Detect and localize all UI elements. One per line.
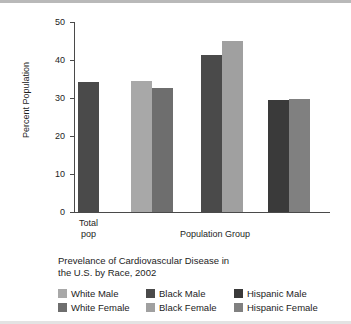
legend-item-white-female: White Female (58, 302, 146, 313)
legend-swatch-icon (58, 303, 67, 312)
legend-label: Black Male (159, 288, 205, 299)
x-tick-label-line-1: Total (65, 218, 112, 229)
x-axis-line (74, 212, 330, 213)
bars-container (0, 22, 351, 212)
bar-chart-plot: 01020304050 Percent Population Totalpop … (0, 0, 351, 240)
y-axis-tick (70, 212, 75, 213)
legend-item-hispanic-male: Hispanic Male (234, 288, 334, 299)
legend-item-black-female: Black Female (146, 302, 234, 313)
legend-swatch-icon (234, 303, 243, 312)
bar-hispanic-female (289, 99, 310, 212)
caption-line-2: the U.S. by Race, 2002 (58, 267, 343, 279)
legend-item-black-male: Black Male (146, 288, 234, 299)
legend-label: Black Female (159, 302, 217, 313)
bar-total-pop (78, 82, 99, 212)
legend-row: White FemaleBlack FemaleHispanic Female (58, 300, 348, 314)
legend-item-white-male: White Male (58, 288, 146, 299)
x-tick-label-total-pop: Totalpop (65, 218, 112, 240)
bar-black-female (222, 41, 243, 212)
legend-label: White Female (71, 302, 130, 313)
bar-white-female (152, 88, 173, 212)
bar-black-male (201, 55, 222, 212)
legend-swatch-icon (146, 289, 155, 298)
legend-swatch-icon (146, 303, 155, 312)
legend-item-hispanic-female: Hispanic Female (234, 302, 334, 313)
chart-legend: White MaleBlack MaleHispanic MaleWhite F… (58, 286, 348, 314)
legend-swatch-icon (234, 289, 243, 298)
figure-page: 01020304050 Percent Population Totalpop … (0, 0, 351, 324)
x-tick-label-line-2: pop (65, 229, 112, 240)
legend-label: Hispanic Male (247, 288, 307, 299)
caption-line-1: Prevelance of Cardiovascular Disease in (58, 255, 343, 267)
figure-caption: Prevelance of Cardiovascular Disease in … (58, 255, 343, 279)
bar-hispanic-male (268, 100, 289, 212)
legend-row: White MaleBlack MaleHispanic Male (58, 286, 348, 300)
bar-white-male (131, 81, 152, 212)
legend-swatch-icon (58, 289, 67, 298)
legend-label: Hispanic Female (247, 302, 318, 313)
x-axis-title: Population Group (150, 229, 280, 240)
legend-label: White Male (71, 288, 119, 299)
